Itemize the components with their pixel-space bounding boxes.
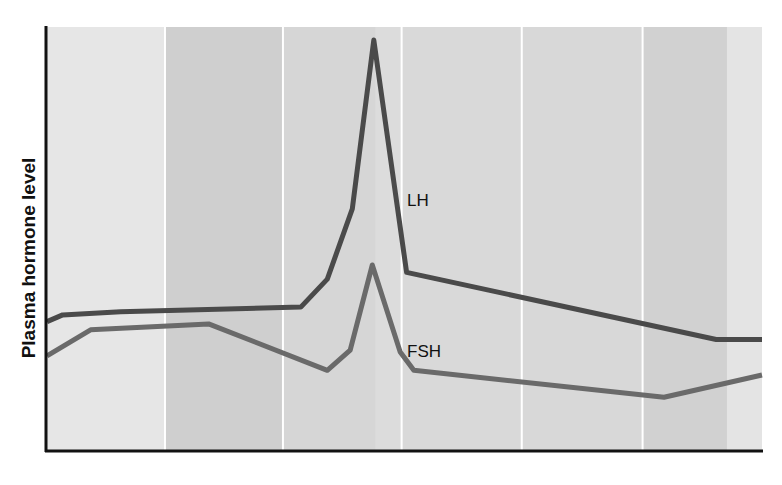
chart-canvas	[0, 0, 782, 485]
phase-band	[47, 27, 165, 450]
fsh-curve-label: FSH	[407, 342, 441, 362]
phase-band	[402, 27, 522, 450]
phase-bands	[47, 27, 762, 450]
lh-curve-label: LH	[407, 191, 429, 211]
hormone-chart: Plasma hormone level LH FSH	[0, 0, 782, 485]
phase-band	[727, 27, 762, 450]
phase-band	[165, 27, 283, 450]
y-axis-label: Plasma hormone level	[17, 108, 41, 408]
phase-band	[283, 27, 376, 450]
